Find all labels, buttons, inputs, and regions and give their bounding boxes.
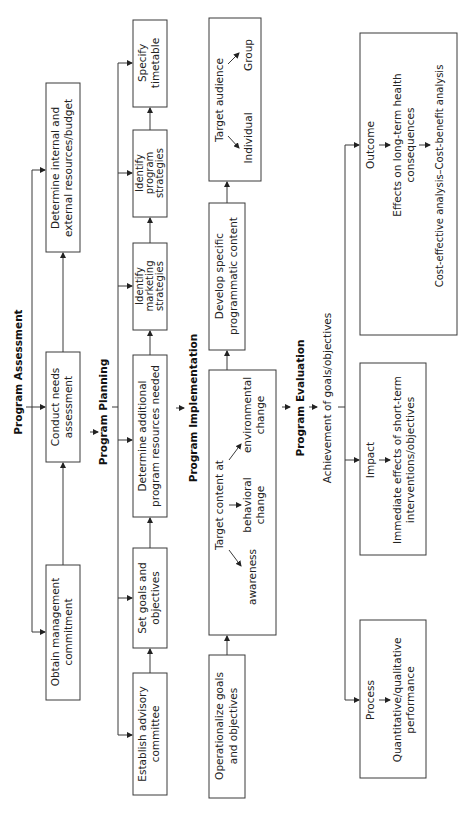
box-establish-advisory-committee: Establish advisory committee bbox=[133, 673, 167, 795]
box-text: commitment bbox=[62, 598, 74, 665]
assessment-section: Program Assessment Obtain management com… bbox=[12, 83, 80, 700]
box-text: strategies bbox=[154, 261, 165, 311]
target-content-heading: Target content at bbox=[213, 460, 225, 551]
box-text: objectives bbox=[149, 571, 161, 624]
box-text: Establish advisory bbox=[136, 686, 148, 781]
assessment-title: Program Assessment bbox=[12, 309, 24, 434]
box-text: program resources needed bbox=[149, 365, 161, 507]
box-text: external resources/budget bbox=[62, 99, 74, 237]
box-text: Develop specific bbox=[213, 233, 225, 319]
outcome-title: Outcome bbox=[364, 121, 376, 169]
program-flow-diagram: Program Assessment Obtain management com… bbox=[0, 0, 467, 823]
behavioral-label: change bbox=[254, 486, 266, 525]
planning-title: Program Planning bbox=[97, 359, 109, 465]
box-obtain-management: Obtain management commitment bbox=[46, 565, 80, 700]
box-conduct-needs-assessment: Conduct needs assessment bbox=[46, 352, 80, 462]
box-text: committee bbox=[149, 706, 161, 763]
box-text: performance bbox=[404, 666, 416, 733]
box-specify-timetable: Specify timetable bbox=[133, 20, 167, 107]
box-text: Conduct needs bbox=[49, 368, 61, 447]
box-determine-internal-resources: Determine internal and external resource… bbox=[46, 83, 80, 252]
box-text: Determine additional bbox=[136, 381, 148, 492]
box-text: Obtain management bbox=[49, 578, 61, 687]
box-text: Specify bbox=[136, 44, 148, 82]
box-text: assessment bbox=[62, 376, 74, 438]
environmental-label: environmental bbox=[241, 377, 253, 453]
box-identify-marketing-strategies: Identify marketing strategies bbox=[133, 243, 167, 330]
group-label: Group bbox=[242, 39, 254, 71]
box-text: Operationalize goals bbox=[213, 672, 225, 780]
box-text: Quantitative/qualitative bbox=[391, 638, 403, 763]
box-text: interventions/objectives bbox=[404, 397, 416, 523]
box-target-audience: Target audience Individual Group bbox=[209, 18, 261, 181]
environmental-label: change bbox=[254, 396, 266, 435]
implementation-section: Program Implementation Operationalize go… bbox=[176, 18, 276, 798]
box-text: Set goals and bbox=[136, 562, 148, 634]
box-identify-program-strategies: Identify program strategies bbox=[133, 130, 167, 217]
target-audience-heading: Target audience bbox=[213, 58, 225, 143]
impact-title: Impact bbox=[364, 442, 376, 478]
box-text: consequences bbox=[404, 108, 416, 183]
box-text: and objectives bbox=[227, 688, 239, 765]
box-text: Immediate effects of short-term bbox=[391, 376, 403, 544]
behavioral-label: behavioral bbox=[241, 477, 253, 532]
implementation-title: Program Implementation bbox=[187, 334, 199, 483]
awareness-label: awareness bbox=[246, 549, 258, 605]
box-text: Effects on long-term health bbox=[391, 73, 403, 216]
evaluation-subtitle: Achievement of goals/objectives bbox=[321, 313, 333, 484]
box-develop-specific-content: Develop specific programmatic content bbox=[209, 203, 245, 350]
individual-label: Individual bbox=[242, 112, 254, 163]
box-impact: Impact Immediate effects of short-term i… bbox=[360, 363, 426, 555]
process-title: Process bbox=[364, 680, 376, 720]
planning-section: Program Planning Establish advisory comm… bbox=[90, 20, 167, 795]
box-text: timetable bbox=[149, 38, 161, 88]
box-text: strategies bbox=[154, 148, 165, 198]
box-determine-additional-resources: Determine additional program resources n… bbox=[133, 355, 167, 517]
box-set-goals-objectives: Set goals and objectives bbox=[133, 548, 167, 648]
box-process: Process Quantitative/qualitative perform… bbox=[360, 620, 426, 778]
box-target-content: Target content at awareness behavioral c… bbox=[209, 370, 276, 635]
evaluation-section: Program Evaluation Achievement of goals/… bbox=[282, 33, 457, 778]
box-text: Cost-effective analysis–Cost-benefit ana… bbox=[434, 65, 445, 288]
evaluation-title: Program Evaluation bbox=[294, 339, 306, 456]
box-outcome: Outcome Effects on long-term health cons… bbox=[360, 33, 457, 335]
box-text: programmatic content bbox=[227, 217, 239, 335]
box-operationalize-goals: Operationalize goals and objectives bbox=[209, 655, 245, 798]
box-text: Determine internal and bbox=[49, 107, 61, 229]
